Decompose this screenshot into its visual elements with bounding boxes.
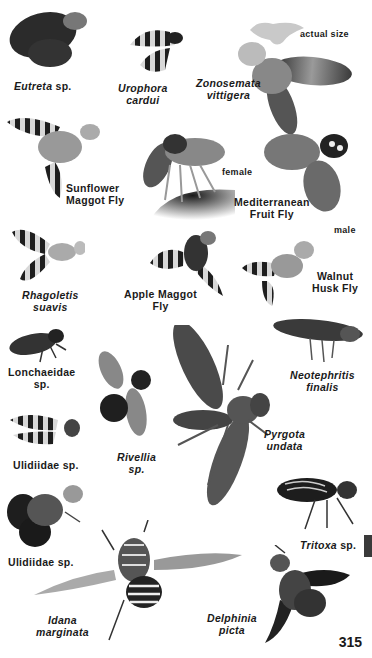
medfly-female-photo — [140, 130, 235, 220]
tritoxa-photo — [275, 474, 360, 532]
section-tab — [364, 535, 372, 557]
label-urophora: Urophoracardui — [118, 82, 168, 106]
label-delphinia: Delphiniapicta — [207, 612, 257, 636]
walnut-husk-fly-photo — [242, 236, 317, 306]
label-rivellia: Rivelliasp. — [117, 451, 156, 475]
neotephritis-photo — [270, 316, 366, 364]
page-number: 315 — [339, 634, 362, 650]
medfly-female-label: female — [222, 166, 252, 178]
ulidiidae-photo-1 — [8, 410, 80, 450]
delphinia-photo — [255, 545, 355, 645]
field-guide-page: Eutreta sp. Urophoracardui actual size Z… — [0, 0, 372, 658]
label-eutreta: Eutreta sp. — [14, 80, 72, 92]
label-mediterranean-fruit-fly: MediterraneanFruit Fly — [234, 196, 310, 220]
medfly-male-label: male — [334, 224, 356, 236]
label-neotephritis: Neotephritisfinalis — [290, 369, 355, 393]
urophora-photo — [125, 20, 185, 75]
pyrgota-photo — [168, 325, 278, 510]
label-idana: Idanamarginata — [36, 614, 89, 638]
rivellia-photo — [96, 350, 161, 440]
label-rhagoletis: Rhagoletissuavis — [22, 289, 79, 313]
label-pyrgota: Pyrgotaundata — [264, 428, 305, 452]
rhagoletis-photo — [10, 224, 85, 286]
label-sunflower-maggot-fly: SunflowerMaggot Fly — [66, 182, 124, 206]
label-lonchaeidae: Lonchaeidaesp. — [8, 366, 75, 390]
label-zonosemata: Zonosematavittigera — [196, 77, 261, 101]
eutreta-photo — [5, 5, 90, 70]
label-ulidiidae-1: Ulidiidae sp. — [13, 459, 79, 471]
label-walnut-husk-fly: WalnutHusk Fly — [312, 270, 358, 294]
label-apple-maggot-fly: Apple MaggotFly — [124, 288, 197, 312]
lonchaeidae-photo — [8, 326, 68, 364]
